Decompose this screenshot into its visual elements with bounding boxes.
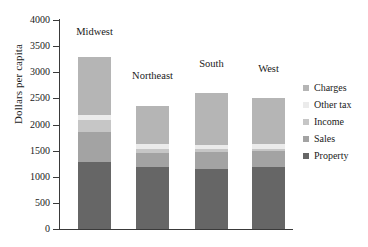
legend-item-property[interactable]: Property <box>303 148 367 164</box>
bar-segment-charges <box>252 98 285 143</box>
y-axis-tick <box>53 98 60 99</box>
bar-segment-property <box>195 169 228 229</box>
bar-segment-sales <box>136 153 169 167</box>
y-axis-tick-label: 0 <box>6 224 50 234</box>
y-axis-tick-label: 1500 <box>6 146 50 156</box>
legend-swatch-icon <box>303 119 309 125</box>
bar-segment-charges <box>136 106 169 144</box>
legend-swatch-icon <box>303 85 309 91</box>
legend-label: Income <box>314 117 344 127</box>
legend-item-sales[interactable]: Sales <box>303 131 367 147</box>
bar-segment-charges <box>195 93 228 145</box>
legend-swatch-icon <box>303 153 309 159</box>
y-axis-tick <box>53 203 60 204</box>
y-axis-tick <box>53 177 60 178</box>
legend-label: Charges <box>314 83 347 93</box>
bar-segment-sales <box>78 132 111 162</box>
y-axis-tick-label: 2500 <box>6 93 50 103</box>
legend-item-charges[interactable]: Charges <box>303 80 367 96</box>
y-axis-tick-label: 500 <box>6 198 50 208</box>
y-axis-tick <box>53 229 60 230</box>
y-axis-tick-label: 1000 <box>6 172 50 182</box>
y-axis-tick <box>53 125 60 126</box>
bar-northeast <box>136 106 169 229</box>
bar-segment-property <box>252 167 285 229</box>
y-axis-tick-label: 4000 <box>6 15 50 25</box>
y-axis-tick <box>53 20 60 21</box>
x-axis-line <box>59 229 293 230</box>
category-label-south: South <box>181 58 242 69</box>
legend-swatch-icon <box>303 136 309 142</box>
bar-segment-property <box>78 162 111 229</box>
bar-west <box>252 98 285 229</box>
y-axis-tick <box>53 46 60 47</box>
bar-segment-income <box>78 120 111 132</box>
y-axis-tick <box>53 72 60 73</box>
legend-label: Other tax <box>314 100 352 110</box>
category-label-northeast: Northeast <box>122 70 183 81</box>
legend-swatch-icon <box>303 102 309 108</box>
stacked-bar-chart: Dollars per capita 050010001500200025003… <box>0 0 368 247</box>
bar-segment-charges <box>78 57 111 116</box>
bar-segment-sales <box>195 152 228 169</box>
bar-midwest <box>78 57 111 229</box>
legend-label: Sales <box>314 134 335 144</box>
y-axis-tick-label: 3000 <box>6 67 50 77</box>
bar-segment-property <box>136 167 169 229</box>
y-axis-tick-label: 3500 <box>6 41 50 51</box>
bar-south <box>195 93 228 229</box>
bar-segment-sales <box>252 151 285 167</box>
legend-item-other-tax[interactable]: Other tax <box>303 97 367 113</box>
chart-legend: ChargesOther taxIncomeSalesProperty <box>303 80 367 165</box>
y-axis-tick <box>53 151 60 152</box>
y-axis-title: Dollars per capita <box>12 14 24 154</box>
y-axis-tick-label: 2000 <box>6 120 50 130</box>
category-label-west: West <box>238 63 299 74</box>
category-label-midwest: Midwest <box>64 26 125 37</box>
legend-item-income[interactable]: Income <box>303 114 367 130</box>
legend-label: Property <box>314 151 348 161</box>
